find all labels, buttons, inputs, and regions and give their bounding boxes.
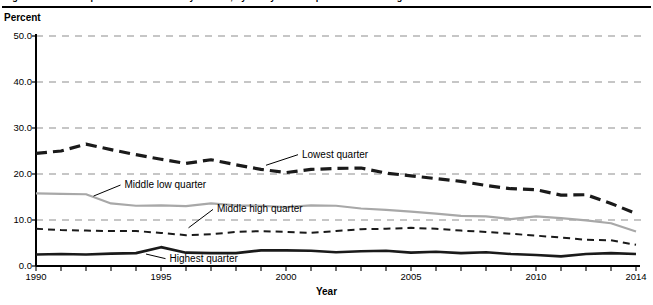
series-label-lowest-quarter: Lowest quarter <box>302 150 368 160</box>
label-leader-line <box>266 155 298 166</box>
x-tick-label: 2000 <box>266 272 306 282</box>
x-tick-label: 1990 <box>16 272 56 282</box>
series-line <box>36 228 636 245</box>
x-tick-label: 2010 <box>516 272 556 282</box>
y-tick-label: 10.0 <box>0 215 32 225</box>
series-line <box>36 193 636 231</box>
label-leader-line <box>146 254 166 259</box>
gridlines <box>36 36 645 220</box>
x-tick-label: 1995 <box>141 272 181 282</box>
series-label-middle-high-quarter: Middle high quarter <box>217 204 303 214</box>
data-series-group <box>36 144 636 256</box>
x-tick-label: 2014 <box>616 272 653 282</box>
label-leader-line <box>189 209 214 227</box>
y-tick-label: 50.0 <box>0 31 32 41</box>
figure-container: Figure 1. Status dropout rates of 16- to… <box>0 0 653 305</box>
y-tick-label: 30.0 <box>0 123 32 133</box>
series-label-highest-quarter: Highest quarter <box>170 254 238 264</box>
series-label-middle-low-quarter: Middle low quarter <box>125 180 207 190</box>
series-line <box>36 247 636 256</box>
y-tick-label: 40.0 <box>0 77 32 87</box>
x-tick-label: 2005 <box>391 272 431 282</box>
y-tick-label: 20.0 <box>0 169 32 179</box>
label-leader-line <box>94 185 121 196</box>
x-axis-title: Year <box>0 286 653 297</box>
y-tick-label: 0.0 <box>0 261 32 271</box>
